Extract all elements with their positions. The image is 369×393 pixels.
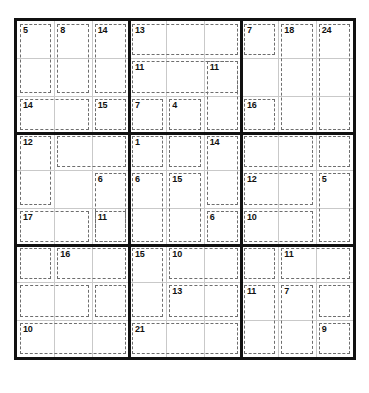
sudoku-cell-r9c4[interactable] xyxy=(129,320,166,357)
cell-value xyxy=(166,320,203,357)
sudoku-cell-r9c2[interactable] xyxy=(54,320,91,357)
sudoku-cell-r2c5[interactable] xyxy=(166,58,203,95)
sudoku-cell-r4c8[interactable] xyxy=(278,133,315,170)
cell-value xyxy=(92,96,129,133)
sudoku-cell-r4c2[interactable] xyxy=(54,133,91,170)
sudoku-cell-r6c6[interactable] xyxy=(204,208,241,245)
sudoku-cell-r2c1[interactable] xyxy=(17,58,54,95)
sudoku-cell-r3c4[interactable] xyxy=(129,96,166,133)
sudoku-cell-r5c2[interactable] xyxy=(54,170,91,207)
sudoku-cell-r6c5[interactable] xyxy=(166,208,203,245)
sudoku-cell-r7c4[interactable] xyxy=(129,245,166,282)
sudoku-cell-r5c8[interactable] xyxy=(278,170,315,207)
sudoku-cell-r4c5[interactable] xyxy=(166,133,203,170)
sudoku-cell-r7c6[interactable] xyxy=(204,245,241,282)
sudoku-cell-r7c7[interactable] xyxy=(241,245,278,282)
sudoku-cell-r8c6[interactable] xyxy=(204,282,241,319)
sudoku-cell-r4c9[interactable] xyxy=(316,133,353,170)
cell-value xyxy=(129,21,166,58)
sudoku-cell-r1c2[interactable] xyxy=(54,21,91,58)
sudoku-cell-r1c7[interactable] xyxy=(241,21,278,58)
sudoku-cell-r7c5[interactable] xyxy=(166,245,203,282)
sudoku-cell-r8c7[interactable] xyxy=(241,282,278,319)
sudoku-cell-r2c8[interactable] xyxy=(278,58,315,95)
sudoku-cell-r1c9[interactable] xyxy=(316,21,353,58)
sudoku-cell-r9c8[interactable] xyxy=(278,320,315,357)
sudoku-cell-r6c9[interactable] xyxy=(316,208,353,245)
sudoku-cell-r6c7[interactable] xyxy=(241,208,278,245)
cell-value xyxy=(17,133,54,170)
sudoku-cell-r1c5[interactable] xyxy=(166,21,203,58)
sudoku-cell-r5c1[interactable] xyxy=(17,170,54,207)
sudoku-cell-r4c1[interactable] xyxy=(17,133,54,170)
sudoku-cell-r1c4[interactable] xyxy=(129,21,166,58)
sudoku-cell-r5c3[interactable] xyxy=(92,170,129,207)
sudoku-cell-r7c1[interactable] xyxy=(17,245,54,282)
sudoku-cell-r8c2[interactable] xyxy=(54,282,91,319)
sudoku-cell-r6c3[interactable] xyxy=(92,208,129,245)
sudoku-cell-r3c2[interactable] xyxy=(54,96,91,133)
sudoku-cell-r8c9[interactable] xyxy=(316,282,353,319)
sudoku-cell-r3c1[interactable] xyxy=(17,96,54,133)
sudoku-cell-r8c3[interactable] xyxy=(92,282,129,319)
sudoku-cell-r2c6[interactable] xyxy=(204,58,241,95)
cell-value xyxy=(54,133,91,170)
sudoku-cell-r3c8[interactable] xyxy=(278,96,315,133)
cell-value xyxy=(92,133,129,170)
cell-value xyxy=(54,96,91,133)
sudoku-cell-r1c6[interactable] xyxy=(204,21,241,58)
sudoku-cell-r6c2[interactable] xyxy=(54,208,91,245)
sudoku-cell-r8c8[interactable] xyxy=(278,282,315,319)
cell-value xyxy=(204,58,241,95)
sudoku-cell-r9c5[interactable] xyxy=(166,320,203,357)
cell-value xyxy=(241,320,278,357)
sudoku-cell-r5c6[interactable] xyxy=(204,170,241,207)
sudoku-cell-r2c3[interactable] xyxy=(92,58,129,95)
cell-value xyxy=(17,21,54,58)
sudoku-cell-r3c3[interactable] xyxy=(92,96,129,133)
sudoku-cell-r1c1[interactable] xyxy=(17,21,54,58)
sudoku-cell-r5c7[interactable] xyxy=(241,170,278,207)
sudoku-cell-r9c7[interactable] xyxy=(241,320,278,357)
sudoku-cell-r7c8[interactable] xyxy=(278,245,315,282)
sudoku-cell-r9c1[interactable] xyxy=(17,320,54,357)
sudoku-cell-r8c5[interactable] xyxy=(166,282,203,319)
sudoku-cell-r7c9[interactable] xyxy=(316,245,353,282)
sudoku-cell-r9c3[interactable] xyxy=(92,320,129,357)
sudoku-cell-r2c2[interactable] xyxy=(54,58,91,95)
sudoku-cell-r1c8[interactable] xyxy=(278,21,315,58)
sudoku-cell-r4c6[interactable] xyxy=(204,133,241,170)
cell-value xyxy=(129,58,166,95)
cell-value xyxy=(129,133,166,170)
sudoku-cell-r1c3[interactable] xyxy=(92,21,129,58)
cell-value xyxy=(241,245,278,282)
sudoku-cell-r3c7[interactable] xyxy=(241,96,278,133)
sudoku-cell-r6c4[interactable] xyxy=(129,208,166,245)
sudoku-cell-r3c6[interactable] xyxy=(204,96,241,133)
cell-value xyxy=(166,58,203,95)
sudoku-cell-r5c5[interactable] xyxy=(166,170,203,207)
sudoku-cell-r3c5[interactable] xyxy=(166,96,203,133)
sudoku-cell-r5c9[interactable] xyxy=(316,170,353,207)
cell-value xyxy=(316,133,353,170)
sudoku-cell-r8c1[interactable] xyxy=(17,282,54,319)
sudoku-cell-r9c9[interactable] xyxy=(316,320,353,357)
sudoku-cell-r7c3[interactable] xyxy=(92,245,129,282)
sudoku-cell-r2c7[interactable] xyxy=(241,58,278,95)
sudoku-cell-r4c3[interactable] xyxy=(92,133,129,170)
sudoku-cell-r4c7[interactable] xyxy=(241,133,278,170)
cell-value xyxy=(92,170,129,207)
sudoku-cell-r6c1[interactable] xyxy=(17,208,54,245)
sudoku-cell-r2c4[interactable] xyxy=(129,58,166,95)
sudoku-cell-r5c4[interactable] xyxy=(129,170,166,207)
sudoku-cell-r8c4[interactable] xyxy=(129,282,166,319)
sudoku-cell-r3c9[interactable] xyxy=(316,96,353,133)
sudoku-cell-r2c9[interactable] xyxy=(316,58,353,95)
cell-value xyxy=(17,96,54,133)
sudoku-cell-r6c8[interactable] xyxy=(278,208,315,245)
sudoku-cell-r7c2[interactable] xyxy=(54,245,91,282)
sudoku-cell-r4c4[interactable] xyxy=(129,133,166,170)
sudoku-cell-r9c6[interactable] xyxy=(204,320,241,357)
cell-value xyxy=(241,58,278,95)
sudoku-board[interactable]: 5814137182411111415741612114661512517116… xyxy=(14,18,356,360)
